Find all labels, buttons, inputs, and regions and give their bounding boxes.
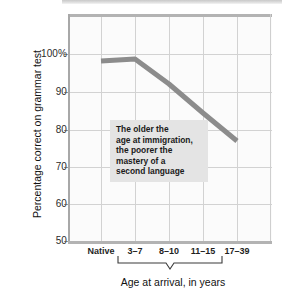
chart-figure: 100% 90 80 70 60 50 Native 3–7 8–10 11–1… (0, 0, 282, 299)
y-axis-title: Percentage correct on grammar test (31, 19, 43, 249)
x-axis-title: Age at arrival, in years (88, 276, 258, 288)
